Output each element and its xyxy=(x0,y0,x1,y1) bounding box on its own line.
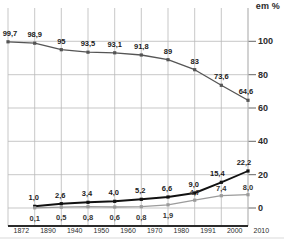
data-point-label: 0,5 xyxy=(56,213,66,222)
data-point-label: 15,4 xyxy=(210,169,225,178)
data-point-label: 22,2 xyxy=(237,158,252,167)
y-axis-tick-label: 20 xyxy=(258,170,268,180)
x-axis-tick-label: 1980 xyxy=(174,227,190,234)
data-point-marker-lower xyxy=(246,193,249,196)
data-point-marker-lower xyxy=(113,205,116,208)
data-point-marker-middle xyxy=(140,198,143,201)
data-point-marker-middle xyxy=(113,200,116,203)
data-point-marker-lower xyxy=(193,199,196,202)
data-point-marker-upper xyxy=(246,99,249,102)
data-point-marker-upper xyxy=(113,51,116,54)
data-point-label: 93,5 xyxy=(81,39,96,48)
data-point-label: 73,6 xyxy=(214,72,229,81)
data-point-marker-upper xyxy=(60,48,63,51)
line-chart-plot xyxy=(0,0,284,241)
data-point-label: 0,8 xyxy=(83,212,93,221)
x-axis-tick-label: 1991 xyxy=(200,227,216,234)
data-point-marker-lower xyxy=(140,205,143,208)
y-axis-tick-label: 0 xyxy=(258,203,263,213)
y-axis-tick-label: 60 xyxy=(258,103,268,113)
data-point-marker-upper xyxy=(86,51,89,54)
y-axis-unit-label: em % xyxy=(256,1,280,11)
x-axis-tick-label: 2010 xyxy=(254,227,270,234)
data-point-marker-upper xyxy=(33,42,36,45)
data-point-marker-upper xyxy=(193,68,196,71)
data-point-marker-upper xyxy=(220,84,223,87)
data-point-label: 2,6 xyxy=(55,190,65,199)
data-point-marker-upper xyxy=(166,58,169,61)
data-point-marker-lower xyxy=(60,206,63,209)
data-point-label: 89 xyxy=(164,46,172,55)
x-axis-tick-label: 2000 xyxy=(227,227,243,234)
data-point-label: 6,6 xyxy=(162,184,172,193)
x-axis-tick-label: 1950 xyxy=(94,227,110,234)
y-axis-tick-label: 100 xyxy=(258,36,273,46)
data-point-label: 0,8 xyxy=(136,212,146,221)
data-point-marker-middle xyxy=(166,195,169,198)
data-point-label: 1,0 xyxy=(28,193,38,202)
data-point-marker-lower xyxy=(33,206,36,209)
data-point-label: 95 xyxy=(57,36,65,45)
data-point-marker-middle xyxy=(86,201,89,204)
y-axis-tick-label: 80 xyxy=(258,70,268,80)
data-point-label: 4,7 xyxy=(189,188,199,197)
data-point-label: 8,0 xyxy=(243,182,253,191)
chart-container: em % 020406080100 1872189019401950196019… xyxy=(0,0,284,241)
data-point-label: 0,1 xyxy=(29,213,39,222)
data-point-label: 7,4 xyxy=(216,183,226,192)
x-axis-tick-label: 1940 xyxy=(67,227,83,234)
data-point-label: 99,7 xyxy=(3,28,18,37)
x-axis-tick-label: 1890 xyxy=(40,227,56,234)
data-point-label: 4,0 xyxy=(108,188,118,197)
data-point-label: 1,9 xyxy=(163,210,173,219)
data-point-label: 64,6 xyxy=(239,87,254,96)
data-point-marker-lower xyxy=(86,205,89,208)
x-axis-tick-label: 1872 xyxy=(14,227,30,234)
data-point-label: 3,4 xyxy=(82,189,92,198)
data-point-marker-middle xyxy=(246,169,249,172)
x-axis-tick-label: 1960 xyxy=(120,227,136,234)
data-point-marker-lower xyxy=(166,203,169,206)
data-point-marker-middle xyxy=(60,202,63,205)
data-point-marker-upper xyxy=(140,53,143,56)
x-axis-tick-label: 1970 xyxy=(147,227,163,234)
data-point-label: 98,9 xyxy=(27,30,42,39)
series-line-upper xyxy=(8,42,248,101)
data-point-label: 5,2 xyxy=(135,186,145,195)
data-point-label: 0,6 xyxy=(109,213,119,222)
data-point-label: 83 xyxy=(191,56,199,65)
y-axis-tick-label: 40 xyxy=(258,136,268,146)
data-point-label: 93,1 xyxy=(107,39,122,48)
data-point-marker-upper xyxy=(6,40,9,43)
data-point-marker-lower xyxy=(220,194,223,197)
data-point-label: 91,8 xyxy=(134,42,149,51)
